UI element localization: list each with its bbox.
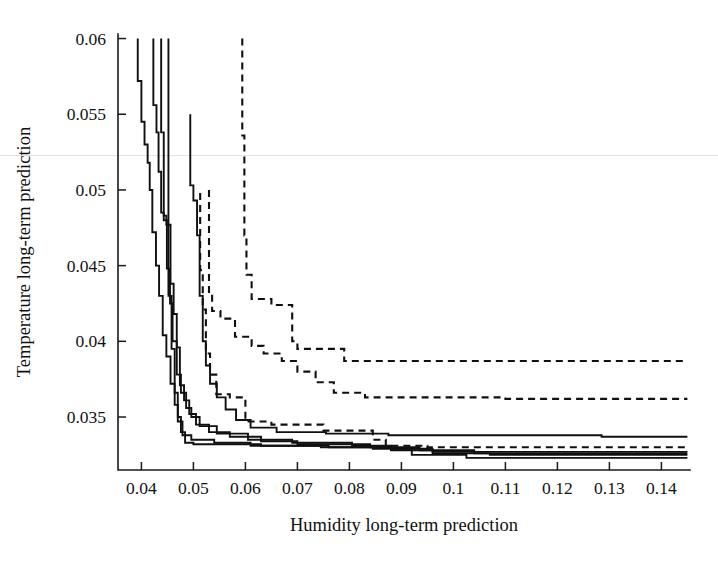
pareto-front-chart: 0.040.050.060.070.080.090.10.110.120.130… bbox=[0, 0, 718, 566]
x-tick-label: 0.14 bbox=[646, 478, 677, 498]
y-tick-label: 0.055 bbox=[67, 104, 107, 124]
y-tick-label: 0.04 bbox=[75, 331, 106, 351]
y-tick-label: 0.045 bbox=[67, 256, 107, 276]
y-tick-label: 0.035 bbox=[67, 407, 107, 427]
x-tick-label: 0.11 bbox=[490, 478, 520, 498]
x-tick-label: 0.1 bbox=[442, 478, 464, 498]
x-tick-label: 0.08 bbox=[334, 478, 365, 498]
y-tick-label: 0.06 bbox=[75, 29, 106, 49]
x-tick-label: 0.07 bbox=[282, 478, 313, 498]
chart-figure: 0.040.050.060.070.080.090.10.110.120.130… bbox=[0, 0, 718, 566]
y-tick-label: 0.05 bbox=[75, 180, 106, 200]
x-axis-title: Humidity long-term prediction bbox=[290, 515, 518, 535]
x-tick-label: 0.12 bbox=[542, 478, 573, 498]
x-tick-label: 0.05 bbox=[178, 478, 209, 498]
x-tick-label: 0.06 bbox=[230, 478, 261, 498]
x-tick-label: 0.09 bbox=[386, 478, 417, 498]
x-tick-label: 0.04 bbox=[126, 478, 157, 498]
x-tick-label: 0.13 bbox=[594, 478, 625, 498]
y-axis-title: Temperature long-term prediction bbox=[14, 127, 34, 377]
